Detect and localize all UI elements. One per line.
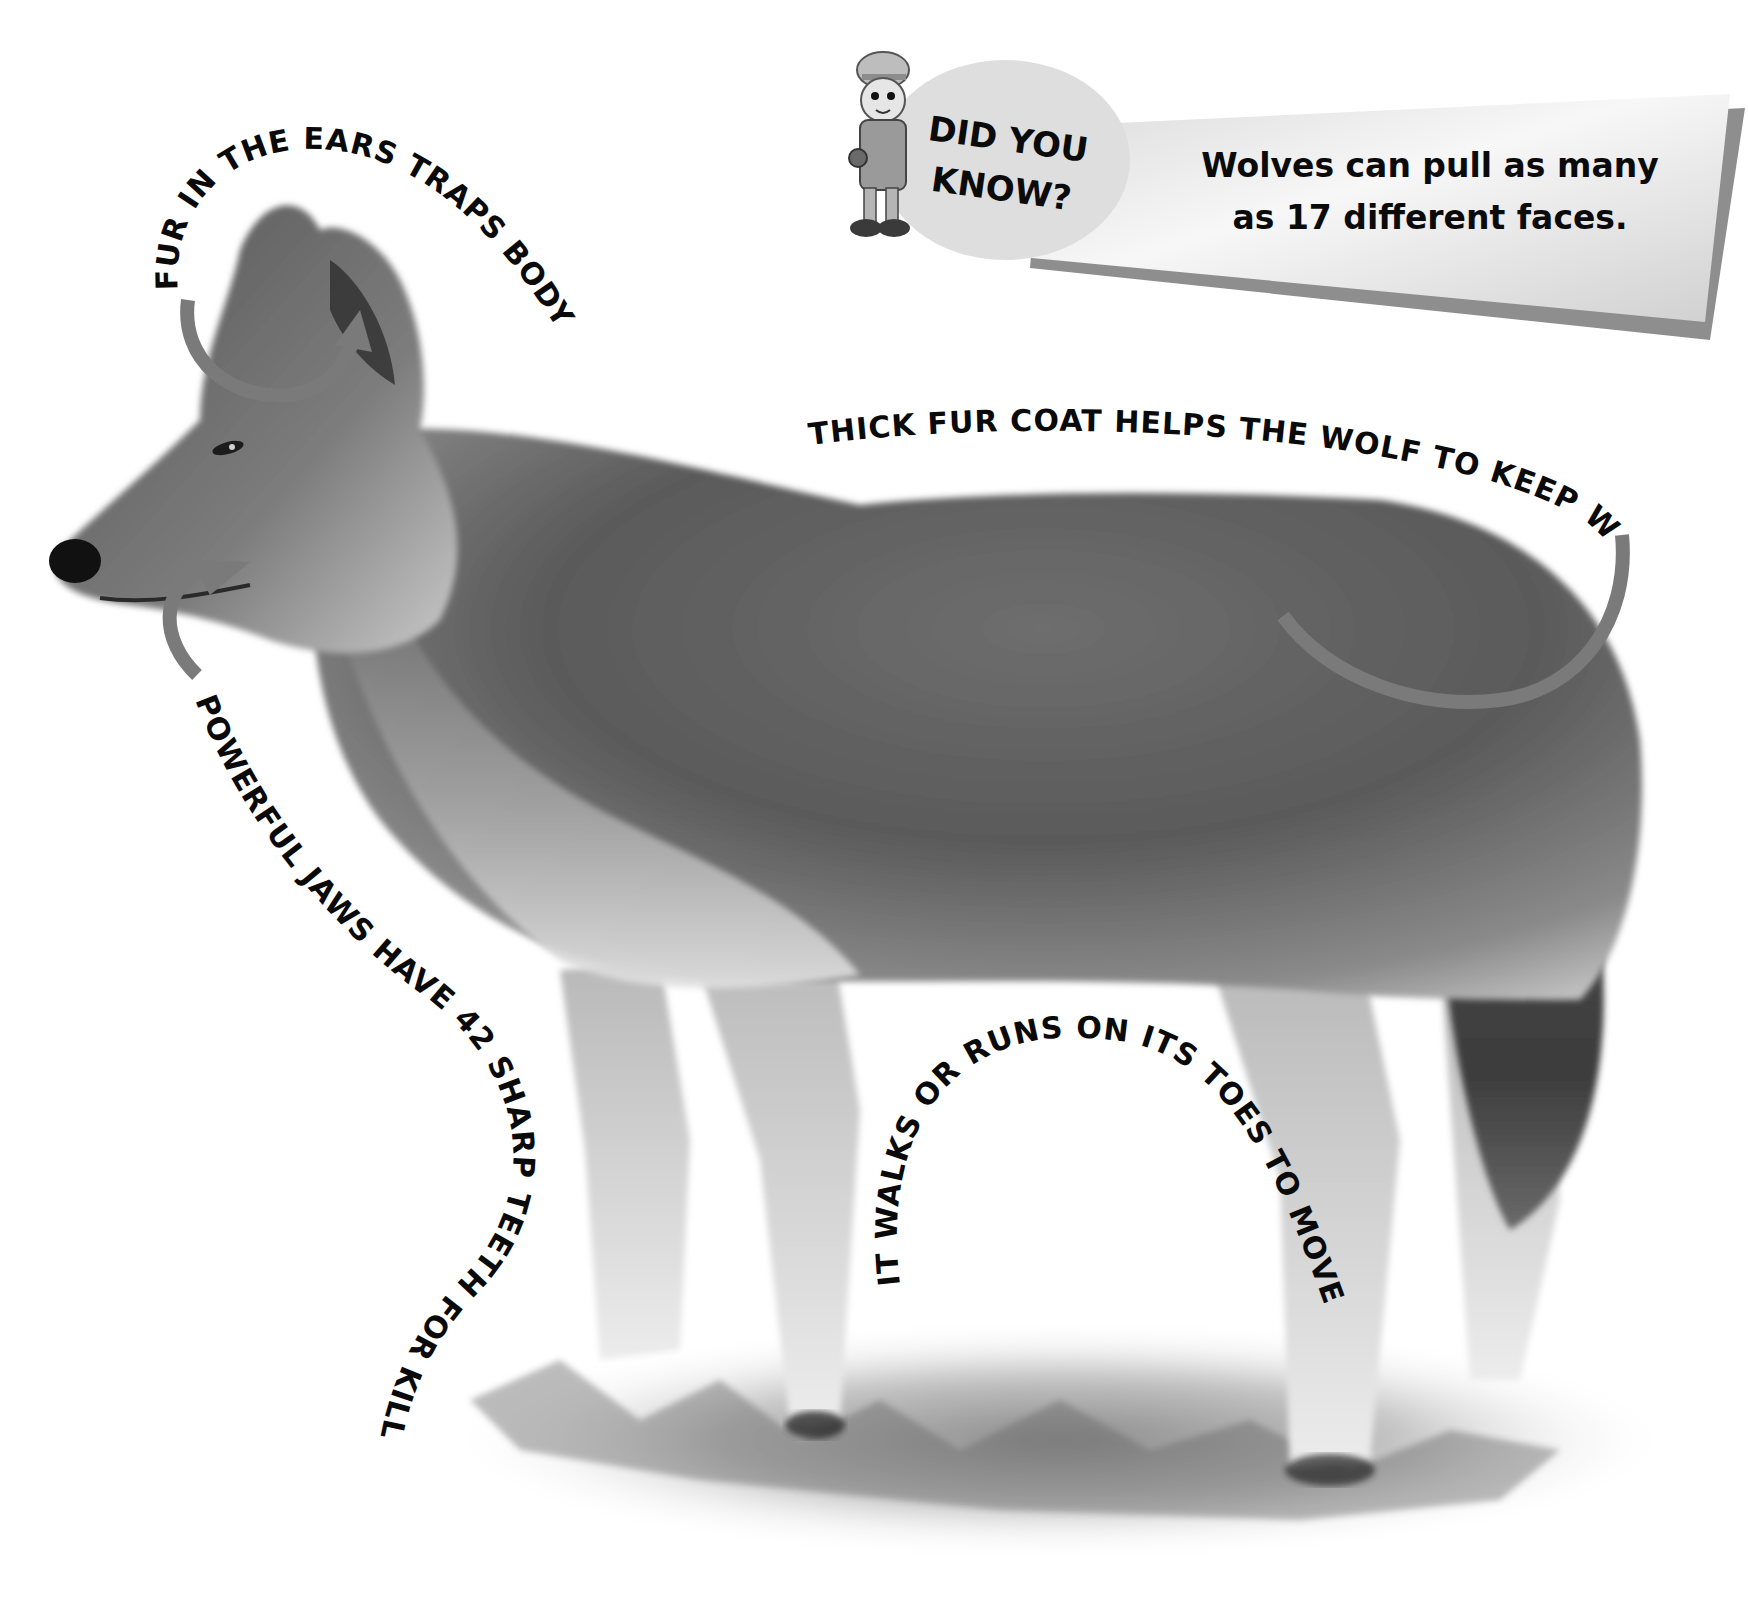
did-you-know-fact: Wolves can pull as many as 17 different … (1160, 140, 1700, 244)
wolf-infographic-page: FUR IN THE EARS TRAPS BODY HEAT THICK FU… (0, 0, 1748, 1602)
wolf-head (49, 205, 457, 653)
wolf-nose (49, 539, 101, 583)
fact-line-2: as 17 different faces. (1160, 192, 1700, 244)
did-you-know-bubble (880, 60, 1130, 260)
fact-line-1: Wolves can pull as many (1160, 140, 1700, 192)
